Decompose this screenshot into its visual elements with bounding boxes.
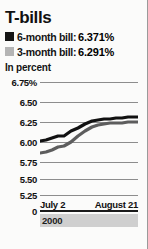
legend: 6-month bill: 6.371% 3-month bill: 6.291…: [5, 29, 138, 59]
column-rule: [147, 0, 148, 249]
legend-value-6-month: 6.371%: [78, 31, 114, 43]
y-tick-label-6-75: 6.75%: [4, 77, 37, 88]
legend-item-3-month: 3-month bill: 6.291%: [5, 44, 138, 59]
legend-value-3-month: 6.291%: [78, 46, 114, 58]
x-axis-start-label: July 2: [40, 199, 65, 210]
legend-swatch-6-month-icon: [5, 32, 14, 41]
y-tick-label-zero: 0: [4, 206, 37, 217]
legend-item-6-month: 6-month bill: 6.371%: [5, 29, 138, 44]
plot-area: 6.75% 6.50 6.25 6.00 5.75 5.50 5.25 0: [4, 76, 138, 198]
legend-label-6-month: 6-month bill:: [17, 31, 76, 43]
legend-swatch-3-month-icon: [5, 47, 14, 56]
figure-inner: T-bills 6-month bill: 6.371% 3-month bil…: [4, 0, 138, 249]
legend-label-3-month: 3-month bill:: [17, 46, 76, 58]
series-lines: [40, 76, 138, 198]
t-bills-chart-figure: T-bills 6-month bill: 6.371% 3-month bil…: [0, 0, 148, 249]
y-tick-label-5-25: 5.25: [4, 190, 37, 201]
page-title: T-bills: [5, 9, 51, 26]
y-axis-note: In percent: [5, 62, 51, 73]
x-axis-end-label: August 21: [95, 199, 138, 210]
x-axis-year-label: 2000: [42, 215, 62, 226]
x-axis: July 2 August 21: [40, 199, 138, 213]
y-tick-label-6-50: 6.50: [4, 97, 37, 108]
y-tick-label-5-50: 5.50: [4, 174, 37, 185]
y-tick-label-6-25: 6.25: [4, 117, 37, 128]
y-tick-label-6-00: 6.00: [4, 137, 37, 148]
y-tick-label-5-75: 5.75: [4, 157, 37, 168]
